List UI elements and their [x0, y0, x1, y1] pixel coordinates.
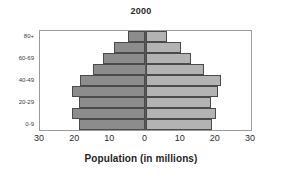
y-axis: 0-920-2940-4960-6980+: [0, 30, 37, 131]
bar-right: [146, 42, 181, 53]
bar-left: [72, 86, 146, 97]
bar-right: [146, 97, 211, 108]
bar-left: [114, 42, 146, 53]
y-tick-label: 20-29: [19, 99, 34, 105]
bar-left: [128, 31, 146, 42]
bar-right: [146, 53, 192, 64]
x-tick-label: 30: [34, 134, 44, 143]
bar-left: [79, 97, 146, 108]
bar-right: [146, 108, 216, 119]
bar-left: [80, 75, 145, 86]
chart-title: 2000: [0, 6, 282, 16]
x-tick-label: 20: [210, 134, 220, 143]
center-axis-line: [145, 31, 146, 130]
bar-left: [79, 119, 146, 130]
y-tick-label: 60-69: [19, 55, 34, 61]
x-tick-label: 10: [104, 134, 114, 143]
y-tick-label: 80+: [24, 33, 34, 39]
x-tick-label: 20: [69, 134, 79, 143]
bar-right: [146, 31, 167, 42]
population-pyramid-chart: 2000 0-920-2940-4960-6980+ 3020100102030…: [0, 0, 282, 178]
x-axis-title: Population (in millions): [0, 153, 282, 164]
y-tick-label: 0-9: [25, 121, 34, 127]
bar-right: [146, 119, 213, 130]
x-tick-label: 10: [175, 134, 185, 143]
y-tick-label: 40-49: [19, 77, 34, 83]
x-tick-label: 30: [245, 134, 255, 143]
bar-left: [72, 108, 146, 119]
bar-right: [146, 75, 222, 86]
x-axis: 3020100102030: [39, 134, 252, 148]
bar-right: [146, 64, 204, 75]
x-tick-label: 0: [142, 134, 147, 143]
bar-left: [93, 64, 146, 75]
bar-right: [146, 86, 218, 97]
plot-area: [39, 30, 252, 131]
bar-left: [103, 53, 145, 64]
